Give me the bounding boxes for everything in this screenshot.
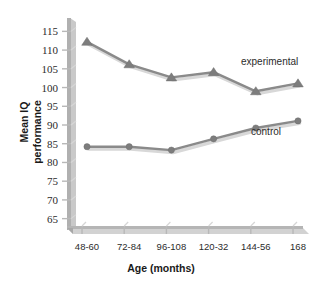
y-axis-title-line1: Mean IQ	[18, 102, 30, 143]
x-tick-label-0: 48-60	[75, 241, 99, 252]
x-tick-ribbon-5	[293, 222, 297, 226]
y-tick-label-65: 65	[47, 213, 59, 225]
series-label-control: control	[251, 126, 281, 137]
data-point-control-1	[126, 144, 132, 150]
data-point-control-5	[295, 118, 301, 124]
y-tick-label-70: 70	[47, 194, 59, 206]
series-label-experimental: experimental	[241, 56, 298, 67]
x-tick-label-2: 96-108	[157, 241, 187, 252]
data-point-experimental-0	[82, 37, 93, 45]
iq-performance-line-chart: 11511010510095908580757065 48-6072-8496-…	[0, 0, 323, 290]
x-tick-label-1: 72-84	[117, 241, 141, 252]
x-tick-labels: 48-6072-8496-108120-32144-56168	[75, 241, 306, 252]
x-tick-ribbon-2	[166, 222, 170, 226]
x-tick-ribbon-1	[124, 222, 128, 226]
y-tick-label-75: 75	[47, 175, 59, 187]
y-tick-label-115: 115	[42, 25, 59, 37]
y-tick-labels: 11511010510095908580757065	[42, 25, 59, 224]
y-tick-label-80: 80	[47, 156, 59, 168]
y-tick-label-110: 110	[42, 44, 59, 56]
data-point-control-2	[168, 147, 174, 153]
x-tick-label-4: 144-56	[241, 241, 271, 252]
x-axis-face	[67, 226, 303, 229]
x-axis-title: Age (months)	[127, 262, 195, 274]
data-point-control-0	[84, 144, 90, 150]
chart-canvas: 11511010510095908580757065 48-6072-8496-…	[0, 0, 323, 290]
x-tick-ribbon-3	[209, 222, 213, 226]
axis-corner	[67, 228, 73, 234]
x-tick-label-5: 168	[290, 241, 306, 252]
y-tick-label-85: 85	[47, 138, 59, 150]
y-tick-label-100: 100	[42, 82, 59, 94]
data-point-control-3	[211, 136, 217, 142]
series-shadow-experimental	[89, 44, 300, 93]
x-tick-ribbon-4	[251, 222, 255, 226]
x-tick-ribbon-0	[82, 222, 86, 226]
y-tick-label-95: 95	[47, 100, 59, 112]
data-point-experimental-5	[293, 79, 304, 87]
y-axis-title-line2: performance	[31, 100, 43, 164]
y-tick-label-90: 90	[47, 119, 59, 131]
x-tick-label-3: 120-32	[199, 241, 229, 252]
y-tick-label-105: 105	[42, 63, 59, 75]
